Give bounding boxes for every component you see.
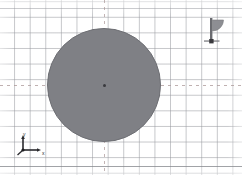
origin-axis-indicator: y x [16, 132, 50, 160]
sector-angle-marker[interactable] [203, 18, 231, 48]
viewport-bottom-border [0, 166, 242, 167]
viewport-left-border [0, 0, 1, 175]
axis-origin-dot [21, 148, 24, 151]
viewport-top-border [0, 8, 242, 9]
sector-pole [210, 18, 212, 41]
axis-x-label: x [42, 151, 45, 156]
axis-y-arrow [21, 135, 25, 150]
sector-base-node [209, 39, 213, 43]
cad-sketch-viewport[interactable]: y x [0, 0, 242, 175]
circle-center-point[interactable] [103, 84, 106, 87]
sector-quarter-fill [212, 20, 223, 31]
axis-x-arrow [23, 148, 41, 152]
axis-y-label: y [23, 132, 26, 137]
